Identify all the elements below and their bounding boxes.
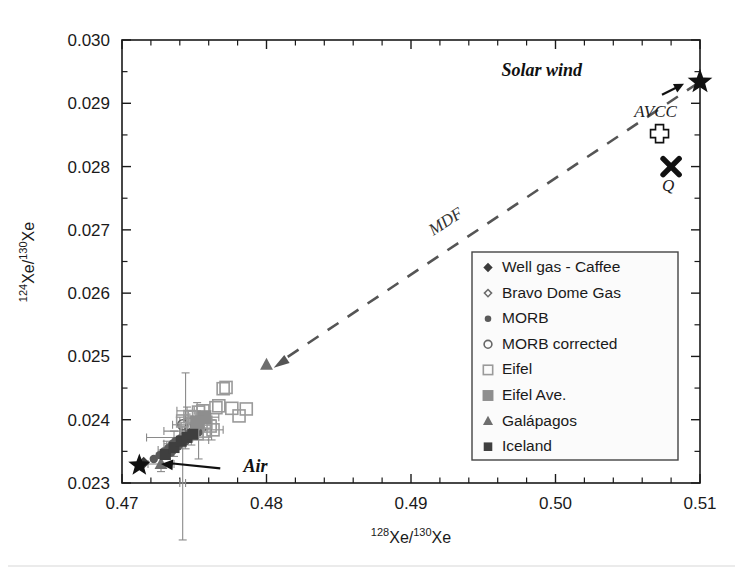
y-title-superscript-2: 130 — [17, 241, 29, 259]
y-tick-label: 0.025 — [67, 347, 110, 366]
marker-filled-square-gray — [190, 415, 204, 429]
y-tick-label: 0.027 — [67, 221, 110, 240]
y-tick-label: 0.024 — [67, 411, 110, 430]
legend-item[interactable]: Well gas - Caffee — [483, 258, 620, 275]
legend-item-label: MORB corrected — [502, 335, 617, 352]
marker-filled-square-gray — [483, 390, 494, 401]
legend-item-label: MORB — [502, 309, 549, 326]
marker-filled-circle — [485, 315, 492, 322]
x-tick-label: 0.51 — [683, 494, 716, 513]
legend-item[interactable]: MORB corrected — [484, 335, 617, 352]
x-tick-label: 0.50 — [539, 494, 572, 513]
legend-item-label: Eifel — [502, 360, 532, 377]
y-tick-label: 0.023 — [67, 474, 110, 493]
air-label: Air — [242, 456, 268, 476]
avcc-label: AVCC — [633, 102, 677, 121]
y-tick-label: 0.028 — [67, 158, 110, 177]
legend-item-label: Galápagos — [502, 412, 577, 429]
legend-item-label: Bravo Dome Gas — [502, 284, 621, 301]
x-tick-label: 0.47 — [105, 494, 138, 513]
marker-filled-square-dark — [484, 442, 493, 451]
chart-legend: Well gas - CaffeeBravo Dome GasMORBMORB … — [472, 252, 678, 460]
y-title-mid: Xe/ — [20, 259, 37, 284]
legend-item-label: Iceland — [502, 437, 552, 454]
q-label: Q — [662, 176, 674, 195]
marker-filled-square-dark — [187, 429, 198, 440]
legend-item[interactable]: Bravo Dome Gas — [484, 284, 621, 301]
x-title-mid: Xe/ — [389, 529, 414, 546]
xenon-isotope-scatter-chart: 0.470.480.490.500.51 0.0230.0240.0250.02… — [0, 0, 743, 573]
y-tick-label: 0.029 — [67, 94, 110, 113]
x-tick-label: 0.49 — [394, 494, 427, 513]
legend-item-label: Well gas - Caffee — [502, 258, 620, 275]
y-tick-label: 0.026 — [67, 284, 110, 303]
y-title-superscript-1: 124 — [17, 284, 29, 302]
solar-wind-label: Solar wind — [501, 60, 583, 80]
x-title-superscript-1: 128 — [371, 526, 389, 538]
x-title-superscript-2: 130 — [413, 526, 431, 538]
figure-root: 0.470.480.490.500.51 0.0230.0240.0250.02… — [0, 0, 743, 573]
y-title-end: Xe — [20, 222, 37, 242]
x-tick-label: 0.48 — [250, 494, 283, 513]
x-title-end: Xe — [432, 529, 452, 546]
y-tick-label: 0.030 — [67, 31, 110, 50]
legend-item-label: Eifel Ave. — [502, 386, 566, 403]
